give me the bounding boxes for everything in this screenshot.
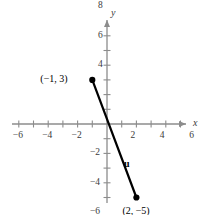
- x-tick-label: 6: [189, 131, 194, 141]
- y-tick-label: −4: [90, 178, 100, 188]
- x-tick-label: −4: [42, 131, 52, 141]
- vector-label-u: u: [124, 159, 130, 169]
- plot-canvas: [0, 0, 206, 215]
- y-tick-label: 4: [98, 60, 103, 70]
- point-b-label: (2, −5): [122, 206, 149, 216]
- coordinate-plane-figure: −8−6−4−2246864−2−4−6(−1, 3)(2, −5)u x y: [0, 0, 206, 215]
- y-tick-label: −2: [90, 148, 100, 158]
- y-axis-arrow-icon: [104, 20, 110, 27]
- point-a-label: (−1, 3): [40, 74, 67, 84]
- y-tick-label: −6: [90, 207, 100, 215]
- axes-group: [12, 20, 186, 203]
- x-tick-label: −6: [13, 131, 23, 141]
- x-tick-label: 4: [160, 131, 165, 141]
- y-axis-label: y: [111, 8, 115, 18]
- y-tick-label: 6: [98, 31, 103, 41]
- y-tick-label: 8: [98, 1, 103, 11]
- point-a: [89, 77, 95, 83]
- point-b: [133, 194, 139, 200]
- x-tick-label: 2: [130, 131, 135, 141]
- x-tick-label: −2: [72, 131, 82, 141]
- x-axis-label: x: [193, 118, 197, 128]
